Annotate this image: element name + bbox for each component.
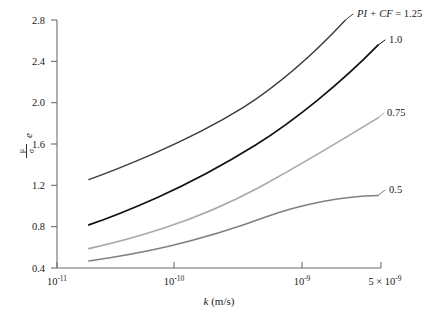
x-tick-2-mantissa: 10 (294, 276, 305, 287)
x-tick-marks (57, 262, 381, 268)
y-axis-frac-numerator: μ (17, 149, 26, 153)
curve-label-value-1-25: 1.25 (404, 8, 422, 19)
x-tick-label-0: 10-11 (47, 274, 67, 287)
curve-label-pi-cf-0-75: 0.75 (387, 107, 405, 118)
y-tick-label-1: 0.8 (32, 221, 45, 232)
y-tick-label-4: 2.0 (32, 97, 45, 108)
svg-text:10-11: 10-11 (47, 274, 67, 287)
svg-text:10-9: 10-9 (294, 274, 311, 287)
y-tick-label-2: 1.2 (32, 180, 45, 191)
y-tick-marks (51, 20, 57, 268)
y-tick-label-3: 1.6 (32, 139, 45, 150)
curve-label-pi-cf-1-25: PI + CF = 1.25 (356, 8, 422, 19)
chart-figure: 0.4 0.8 1.2 1.6 2.0 2.4 2.8 10-11 10-10 … (0, 0, 434, 313)
y-tick-label-0: 0.4 (32, 263, 46, 274)
curve-pi-cf-1-25 (89, 20, 345, 179)
x-tick-1-exponent: -10 (174, 274, 184, 283)
curve-label-prefix: PI + CF (356, 8, 393, 19)
x-tick-3-exponent: -9 (395, 274, 401, 283)
x-tick-3-mantissa: 5 × 10 (368, 276, 395, 287)
y-tick-label-6: 2.8 (32, 15, 45, 26)
svg-text:10-10: 10-10 (164, 274, 185, 287)
y-tick-label-5: 2.4 (32, 56, 46, 67)
y-axis-symbol: e (22, 133, 34, 138)
curve-pi-cf-0-5 (89, 196, 378, 261)
curve-label-pi-cf-1-0: 1.0 (389, 34, 402, 45)
curve-label-pi-cf-0-5: 0.5 (389, 184, 402, 195)
chart-svg: 0.4 0.8 1.2 1.6 2.0 2.4 2.8 10-11 10-10 … (0, 0, 434, 313)
x-tick-2-exponent: -9 (304, 274, 310, 283)
x-axis-title: k (m/s) (204, 295, 235, 308)
x-tick-label-1: 10-10 (164, 274, 185, 287)
y-axis-frac-denominator: σ (27, 149, 36, 153)
leader-line-1-0 (378, 40, 385, 45)
x-tick-1-mantissa: 10 (164, 276, 175, 287)
svg-text:5 × 10-9: 5 × 10-9 (368, 274, 401, 287)
curve-pi-cf-1-0 (89, 45, 378, 225)
leader-line-0-5 (378, 190, 385, 196)
x-tick-0-exponent: -11 (57, 274, 67, 283)
x-tick-label-2: 10-9 (294, 274, 311, 287)
x-axis-title-units: (m/s) (211, 295, 235, 308)
x-tick-0-mantissa: 10 (47, 276, 58, 287)
x-tick-label-3: 5 × 10-9 (368, 274, 401, 287)
leader-line-1-25 (345, 14, 353, 20)
leader-line-0-75 (378, 113, 384, 118)
